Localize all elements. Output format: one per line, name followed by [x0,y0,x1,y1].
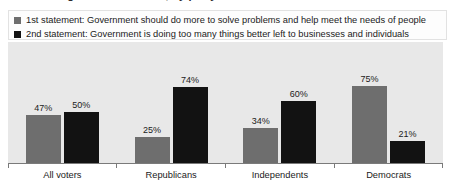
axis-tick [225,163,226,168]
bar-wrap-series-1: 25% [135,42,170,163]
x-axis-labels: All voters Republicans Independents Demo… [8,170,443,180]
bar-value-label: 47% [34,103,52,114]
bar-wrap-series-1: 75% [352,42,387,163]
chart-figure: Views of government's role, by party 1st… [0,0,455,188]
bar-series-2 [173,87,208,163]
page-title: Views of government's role, by party [18,0,217,1]
plot-area: 47% 50% 25% 74% [8,42,443,163]
bar-series-2 [64,112,99,164]
x-axis-label: Independents [226,170,335,180]
legend-label-series-2: 2nd statement: Government is doing too m… [26,29,409,40]
bar-wrap-series-1: 34% [243,42,278,163]
bar-value-label: 74% [181,75,199,86]
bar-value-label: 34% [252,116,270,127]
legend-label-series-1: 1st statement: Government should do more… [26,15,426,26]
bar-value-label: 25% [143,125,161,136]
x-axis-label: Republicans [117,170,226,180]
bar-value-label: 60% [290,89,308,100]
legend-entry-series-2: 2nd statement: Government is doing too m… [13,28,446,41]
axis-tick [334,163,335,168]
x-axis-label: All voters [8,170,117,180]
bar-group-all-voters: 47% 50% [8,42,117,163]
bar-group-independents: 34% 60% [226,42,335,163]
bars: 75% 21% [334,42,443,163]
bar-series-1 [135,137,170,163]
legend-swatch-series-2 [14,31,21,38]
legend-entry-series-1: 1st statement: Government should do more… [13,14,446,27]
bar-value-label: 75% [361,74,379,85]
bar-wrap-series-2: 50% [64,42,99,163]
bar-wrap-series-2: 21% [390,42,425,163]
bars: 25% 74% [117,42,226,163]
bar-wrap-series-1: 47% [26,42,61,163]
bar-series-2 [390,141,425,163]
bars: 34% 60% [226,42,335,163]
bar-series-1 [352,86,387,163]
bars: 47% 50% [8,42,117,163]
axis-tick [8,163,9,168]
chart-legend: 1st statement: Government should do more… [8,10,447,40]
bar-series-2 [281,101,316,163]
bar-series-1 [243,128,278,163]
chart-title-clipped: Views of government's role, by party [0,0,455,9]
bar-group-democrats: 75% 21% [334,42,443,163]
bar-value-label: 50% [72,100,90,111]
legend-swatch-series-1 [14,17,21,24]
bar-series-1 [26,115,61,163]
axis-tick [116,163,117,168]
bar-wrap-series-2: 74% [173,42,208,163]
bar-value-label: 21% [399,129,417,140]
x-axis-label: Democrats [334,170,443,180]
x-axis-line [8,163,443,164]
bar-wrap-series-2: 60% [281,42,316,163]
bar-groups: 47% 50% 25% 74% [8,42,443,163]
axis-tick [442,163,443,168]
bar-group-republicans: 25% 74% [117,42,226,163]
